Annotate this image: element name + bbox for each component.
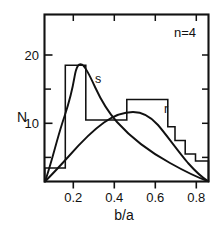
y-axis-ticks bbox=[45, 55, 53, 157]
x-tick-label-0p6: 0.6 bbox=[146, 190, 164, 205]
curve-s bbox=[45, 64, 208, 181]
x-tick-label-0p4: 0.4 bbox=[105, 190, 123, 205]
chart-svg: 20 10 0.2 0.4 0.6 0.8 N b/a n=4 s r bbox=[0, 0, 219, 230]
histogram-outline bbox=[45, 65, 209, 181]
y-axis-label: N bbox=[17, 109, 27, 125]
curve-label-s: s bbox=[95, 72, 101, 86]
x-tick-label-0p2: 0.2 bbox=[64, 190, 82, 205]
sample-size-annotation: n=4 bbox=[174, 25, 196, 40]
x-axis-label: b/a bbox=[114, 207, 134, 223]
chart-figure: 20 10 0.2 0.4 0.6 0.8 N b/a n=4 s r bbox=[0, 0, 219, 230]
curve-label-r: r bbox=[164, 102, 168, 116]
y-tick-label-20: 20 bbox=[25, 48, 39, 63]
x-tick-label-0p8: 0.8 bbox=[187, 190, 205, 205]
